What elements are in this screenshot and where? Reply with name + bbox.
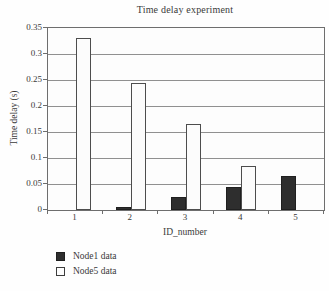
x-tick-mark [102, 210, 103, 214]
bar-node1-id4 [226, 187, 241, 210]
legend: Node1 data Node5 data [56, 249, 117, 279]
y-tick-label: 0.15 [10, 126, 42, 136]
x-tick-mark [157, 210, 158, 214]
legend-item-node1: Node1 data [56, 249, 117, 264]
y-tick-label: 0.25 [10, 74, 42, 84]
bar-node5-id4 [241, 166, 256, 210]
x-tick-label: 1 [65, 212, 85, 222]
y-tick-mark [43, 183, 47, 184]
y-tick-label: 0.3 [10, 48, 42, 58]
bar-node5-id1 [76, 38, 91, 210]
x-tick-label: 2 [120, 212, 140, 222]
y-tick-label: 0.05 [10, 178, 42, 188]
bar-node5-id3 [186, 124, 201, 210]
bar-node5-id2 [131, 83, 146, 210]
y-axis-label: Time delay (s) [9, 90, 19, 145]
x-tick-mark [47, 210, 48, 214]
chart-figure: Time delay experiment Time delay (s) ID_… [0, 0, 329, 291]
node1-filled-square-icon [56, 252, 65, 261]
bar-node1-id5 [281, 176, 296, 210]
y-tick-mark [43, 27, 47, 28]
y-tick-mark [43, 157, 47, 158]
x-tick-mark [323, 210, 324, 214]
x-axis-label: ID_number [47, 227, 323, 237]
legend-label-node5: Node5 data [73, 264, 117, 279]
bar-node1-id3 [171, 197, 186, 210]
x-tick-label: 3 [175, 212, 195, 222]
plot-area [47, 27, 325, 211]
bar-node1-id2 [116, 207, 131, 210]
legend-item-node5: Node5 data [56, 264, 117, 279]
x-tick-label: 4 [230, 212, 250, 222]
node5-open-square-icon [56, 267, 65, 276]
y-tick-mark [43, 105, 47, 106]
y-tick-label: 0 [10, 204, 42, 214]
x-tick-mark [268, 210, 269, 214]
y-tick-label: 0.35 [10, 22, 42, 32]
chart-title: Time delay experiment [47, 4, 323, 15]
y-tick-mark [43, 131, 47, 132]
y-tick-mark [43, 79, 47, 80]
x-tick-label: 5 [285, 212, 305, 222]
y-tick-label: 0.2 [10, 100, 42, 110]
x-tick-mark [213, 210, 214, 214]
y-tick-mark [43, 53, 47, 54]
y-tick-label: 0.1 [10, 152, 42, 162]
legend-label-node1: Node1 data [73, 249, 117, 264]
